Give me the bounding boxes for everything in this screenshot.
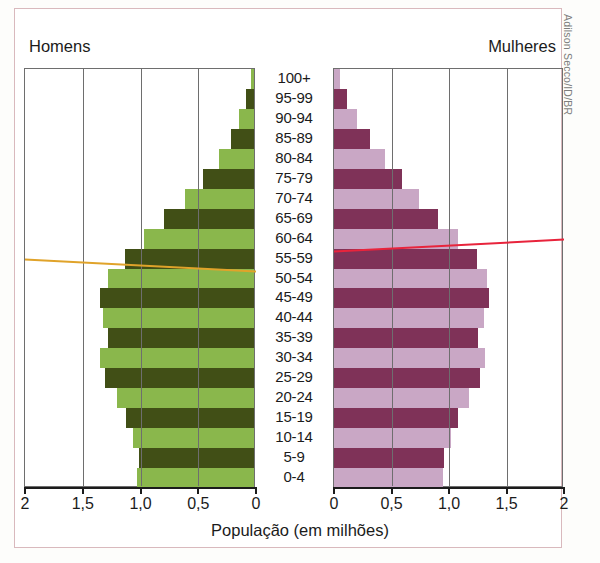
bar-row (334, 388, 562, 408)
bar-row (334, 468, 562, 488)
bar-row (334, 249, 562, 269)
bar-row (25, 448, 254, 468)
age-label-75-79: 75-79 (255, 168, 333, 188)
bar-row (334, 149, 562, 169)
female-plot-panel (333, 68, 563, 487)
age-label-10-14: 10-14 (255, 427, 333, 447)
x-tick-label: 1,0 (121, 495, 161, 513)
bar-homens-75-79 (203, 169, 254, 189)
age-label-70-74: 70-74 (255, 188, 333, 208)
bar-mulheres-100+ (334, 69, 340, 89)
bar-homens-5-9 (139, 448, 255, 468)
bar-homens-0-4 (137, 468, 254, 488)
bar-homens-45-49 (100, 288, 254, 308)
x-tick-label: 1,5 (487, 495, 527, 513)
age-label-100+: 100+ (255, 68, 333, 88)
bar-homens-65-69 (164, 209, 254, 229)
age-label-25-29: 25-29 (255, 367, 333, 387)
age-label-45-49: 45-49 (255, 287, 333, 307)
bar-row (334, 368, 562, 388)
bar-row (334, 89, 562, 109)
bar-row (25, 69, 254, 89)
bar-row (334, 408, 562, 428)
bar-row (334, 348, 562, 368)
x-tick (197, 487, 199, 494)
x-tick-label: 0 (314, 495, 354, 513)
bar-mulheres-70-74 (334, 189, 419, 209)
bar-homens-40-44 (103, 308, 254, 328)
age-label-95-99: 95-99 (255, 88, 333, 108)
bar-row (334, 308, 562, 328)
bar-homens-80-84 (219, 149, 254, 169)
male-plot-panel (24, 68, 255, 487)
bar-row (25, 129, 254, 149)
age-label-65-69: 65-69 (255, 208, 333, 228)
bar-row (25, 368, 254, 388)
x-tick-label: 1,5 (63, 495, 103, 513)
bar-homens-95-99 (246, 89, 254, 109)
gridline (507, 69, 508, 486)
x-tick-label: 0,5 (372, 495, 412, 513)
bar-row (25, 269, 254, 289)
x-axis-title: População (em milhões) (0, 521, 600, 540)
bar-row (334, 288, 562, 308)
bar-homens-30-34 (100, 348, 254, 368)
x-tick-label: 2 (5, 495, 45, 513)
bar-mulheres-30-34 (334, 348, 485, 368)
bar-row (334, 69, 562, 89)
bar-mulheres-0-4 (334, 468, 443, 488)
bar-mulheres-95-99 (334, 89, 347, 109)
bar-mulheres-10-14 (334, 428, 451, 448)
age-label-80-84: 80-84 (255, 148, 333, 168)
bar-row (334, 229, 562, 249)
x-tick (140, 487, 142, 494)
x-tick-label: 0,5 (178, 495, 218, 513)
age-label-20-24: 20-24 (255, 387, 333, 407)
female-bar-rows (334, 69, 562, 486)
x-tick (391, 487, 393, 494)
bar-row (334, 269, 562, 289)
age-label-30-34: 30-34 (255, 347, 333, 367)
bar-homens-70-74 (185, 189, 254, 209)
age-group-labels: 100+95-9990-9485-8980-8475-7970-7465-696… (255, 68, 333, 487)
age-label-55-59: 55-59 (255, 248, 333, 268)
bar-mulheres-85-89 (334, 129, 370, 149)
bar-mulheres-35-39 (334, 328, 478, 348)
age-label-35-39: 35-39 (255, 327, 333, 347)
bar-mulheres-90-94 (334, 109, 357, 129)
age-label-90-94: 90-94 (255, 108, 333, 128)
bar-row (25, 169, 254, 189)
x-tick (82, 487, 84, 494)
bar-homens-85-89 (231, 129, 254, 149)
bar-mulheres-80-84 (334, 149, 385, 169)
gridline (198, 69, 199, 486)
bar-row (334, 129, 562, 149)
x-tick (333, 487, 335, 494)
age-label-0-4: 0-4 (255, 467, 333, 487)
bar-mulheres-55-59 (334, 249, 477, 269)
bar-mulheres-40-44 (334, 308, 484, 328)
bar-row (334, 189, 562, 209)
bar-homens-100+ (251, 69, 254, 89)
bar-mulheres-15-19 (334, 408, 458, 428)
bar-row (25, 308, 254, 328)
gridline (449, 69, 450, 486)
age-label-60-64: 60-64 (255, 228, 333, 248)
bar-row (25, 149, 254, 169)
bar-row (334, 428, 562, 448)
bar-row (25, 109, 254, 129)
bar-mulheres-60-64 (334, 229, 458, 249)
x-tick (506, 487, 508, 494)
age-label-40-44: 40-44 (255, 307, 333, 327)
population-pyramid-chart: 100+95-9990-9485-8980-8475-7970-7465-696… (0, 0, 600, 563)
bar-homens-25-29 (105, 368, 254, 388)
bar-homens-10-14 (133, 428, 254, 448)
bar-mulheres-50-54 (334, 269, 487, 289)
bar-row (25, 388, 254, 408)
x-tick (448, 487, 450, 494)
bar-row (25, 249, 254, 269)
bar-row (334, 169, 562, 189)
bar-homens-50-54 (108, 269, 254, 289)
bar-homens-15-19 (126, 408, 254, 428)
age-label-5-9: 5-9 (255, 447, 333, 467)
